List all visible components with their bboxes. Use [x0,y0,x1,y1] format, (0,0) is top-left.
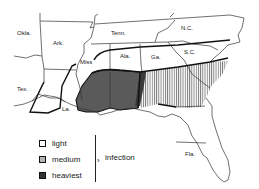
legend-item-light: light [39,135,82,151]
legend-item-heaviest: heaviest [39,167,82,183]
state-label-ala: Ala. [120,53,131,59]
legend-label-heaviest: heaviest [52,171,82,180]
state-label-sc: S.C. [184,49,196,55]
state-label-la: La. [62,106,71,112]
state-label-tex: Tex. [17,86,28,92]
state-label-nc: N.C. [181,25,193,31]
legend-label-light: light [52,139,67,148]
medium-swatch-icon [39,156,46,163]
legend: light medium heaviest [39,135,82,183]
light-swatch-icon [39,140,46,147]
heaviest-swatch-icon [39,172,46,179]
legend-item-medium: medium [39,151,82,167]
state-label-ark: Ark. [53,40,64,46]
state-label-ga: Ga. [151,54,161,60]
heaviest-infection-zone [76,70,142,112]
legend-brace-tip: › [97,156,100,165]
state-label-miss: Miss [80,59,92,65]
state-label-tenn: Tenn. [111,30,126,36]
medium-infection-zone [140,61,228,108]
legend-label-medium: medium [52,155,80,164]
state-label-fla: Fla. [185,151,195,157]
legend-group-label: infection [105,153,135,162]
state-label-okla: Okla. [17,30,31,36]
